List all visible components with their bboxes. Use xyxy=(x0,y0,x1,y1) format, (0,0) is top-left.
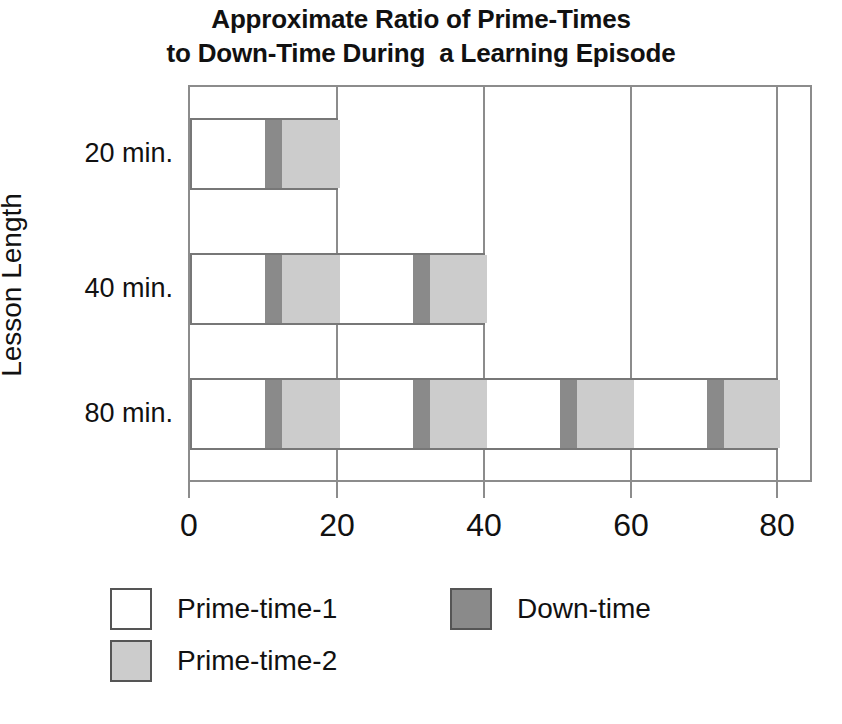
segment-prime-time-2 xyxy=(282,120,340,188)
segment-prime-time-1 xyxy=(192,380,265,448)
legend-label-down-time: Down-time xyxy=(517,588,651,630)
segment-down-time xyxy=(265,255,282,323)
x-tick-label-20: 20 xyxy=(302,505,372,545)
legend-swatch-prime-time-2-icon xyxy=(110,640,152,682)
x-tick-60 xyxy=(630,482,632,498)
segment-prime-time-1 xyxy=(192,120,265,188)
x-tick-80 xyxy=(776,482,778,498)
legend-item-down-time: Down-time xyxy=(450,588,651,630)
bar-80-min xyxy=(190,378,778,450)
bar-40-min xyxy=(190,253,485,325)
segment-prime-time-1 xyxy=(634,380,707,448)
plot-area xyxy=(188,85,812,482)
chart-title-line-2: to Down-Time During a Learning Episode xyxy=(0,36,842,70)
segment-prime-time-2 xyxy=(577,380,634,448)
x-tick-40 xyxy=(483,482,485,498)
segment-down-time xyxy=(413,380,430,448)
x-tick-label-60: 60 xyxy=(596,505,666,545)
x-tick-0 xyxy=(188,482,190,498)
segment-down-time xyxy=(265,120,282,188)
x-tick-label-80: 80 xyxy=(742,505,812,545)
segment-prime-time-2 xyxy=(430,380,487,448)
bar-20-min xyxy=(190,118,338,190)
segment-prime-time-2 xyxy=(724,380,780,448)
chart-title-line-1: Approximate Ratio of Prime-Times xyxy=(0,2,842,36)
segment-prime-time-1 xyxy=(192,255,265,323)
segment-down-time xyxy=(265,380,282,448)
x-axis-line xyxy=(188,480,812,482)
segment-down-time xyxy=(560,380,577,448)
chart-title: Approximate Ratio of Prime-Times to Down… xyxy=(0,2,842,70)
chart-legend: Prime-time-1 Prime-time-2 Down-time xyxy=(110,588,750,698)
segment-prime-time-2 xyxy=(430,255,487,323)
legend-label-prime-time-2: Prime-time-2 xyxy=(177,640,337,682)
x-tick-label-0: 0 xyxy=(154,505,224,545)
y-tick-label-1: 40 min. xyxy=(8,273,173,303)
y-tick-label-0: 20 min. xyxy=(8,138,173,168)
x-tick-20 xyxy=(336,482,338,498)
segment-prime-time-1 xyxy=(487,380,560,448)
segment-prime-time-2 xyxy=(282,255,340,323)
x-tick-label-40: 40 xyxy=(449,505,519,545)
segment-prime-time-1 xyxy=(340,255,413,323)
segment-down-time xyxy=(413,255,430,323)
y-tick-label-2: 80 min. xyxy=(8,398,173,428)
legend-swatch-prime-time-1-icon xyxy=(110,588,152,630)
segment-down-time xyxy=(707,380,724,448)
legend-item-prime-time-1: Prime-time-1 xyxy=(110,588,337,630)
segment-prime-time-2 xyxy=(282,380,340,448)
chart-figure: Approximate Ratio of Prime-Times to Down… xyxy=(0,0,842,724)
segment-prime-time-1 xyxy=(340,380,413,448)
legend-label-prime-time-1: Prime-time-1 xyxy=(177,588,337,630)
legend-swatch-down-time-icon xyxy=(450,588,492,630)
legend-item-prime-time-2: Prime-time-2 xyxy=(110,640,337,682)
